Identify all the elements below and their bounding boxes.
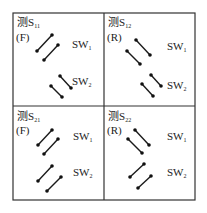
switch-sw1: [125, 38, 152, 66]
sw1-label: SW1: [167, 40, 187, 53]
panel-s11-direction: (F): [16, 31, 30, 44]
sw2-label: SW2: [167, 166, 187, 179]
switch-sw2: [140, 73, 163, 98]
panel-s11-title: 测S11: [17, 16, 40, 29]
sw2-label: SW2: [73, 166, 93, 179]
panel-s22-direction: (R): [107, 124, 122, 137]
panel-s22-title: 测S22: [108, 110, 131, 123]
sw1-label: SW1: [73, 130, 93, 143]
sw1-label: SW1: [167, 130, 187, 143]
panel-s12: 测S12 (R) SW1 SW2: [107, 16, 187, 98]
panel-s12-direction: (R): [107, 31, 122, 44]
switch-sw2: [36, 164, 63, 193]
panel-s22: 测S22 (R) SW1 SW2: [107, 110, 187, 190]
switch-sw2: [128, 162, 153, 190]
switch-sw1: [36, 128, 60, 156]
panel-s21: 测S21 (F) SW1 SW2: [16, 110, 93, 193]
sw1-label: SW1: [72, 38, 92, 51]
sw2-label: SW2: [72, 75, 92, 88]
panel-s21-direction: (F): [16, 124, 30, 137]
switch-sw1: [35, 33, 60, 62]
s-parameter-switch-diagram: 测S11 (F) SW1 SW2 测S12 (R) SW1: [0, 0, 207, 213]
sw2-label: SW2: [167, 79, 187, 92]
switch-sw1: [126, 128, 151, 155]
panel-s12-title: 测S12: [108, 16, 131, 29]
panel-s11: 测S11 (F) SW1 SW2: [16, 16, 92, 99]
switch-sw2: [49, 74, 73, 99]
panel-s21-title: 测S21: [17, 110, 40, 123]
